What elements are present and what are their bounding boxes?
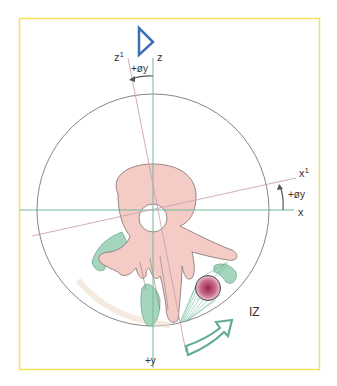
rotation-direction-arrow-icon <box>186 320 232 355</box>
label-x1: x1 <box>299 166 310 179</box>
label-rot-y-top: +øy <box>131 63 148 74</box>
label-z1: z1 <box>114 50 125 63</box>
rotation-arrow-right <box>280 186 283 210</box>
label-x: x <box>298 206 304 218</box>
nerve-root-marker <box>196 276 221 301</box>
label-rot-y-right: +øy <box>288 189 305 200</box>
label-iz: IZ <box>249 305 260 319</box>
label-z: z <box>157 51 163 63</box>
rotation-arrowhead-right <box>277 184 283 190</box>
rotation-diagram: z1 z +øy x1 +øy x +y IZ <box>0 0 337 386</box>
view-direction-triangle-icon <box>139 28 153 55</box>
label-plus-y: +y <box>145 355 156 366</box>
